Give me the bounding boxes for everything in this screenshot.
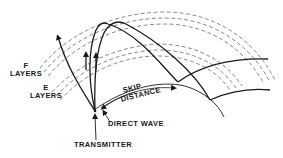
second-hop-ray-1 xyxy=(178,59,268,82)
transmitter-point xyxy=(94,110,97,113)
f-layers xyxy=(40,12,275,84)
e-layers-label-line2: LAYERS xyxy=(26,92,66,100)
f-layer-arc-1 xyxy=(40,12,275,80)
f-layer-arc-3 xyxy=(48,24,264,84)
second-hop-ray-2 xyxy=(210,89,270,100)
e-layer-arc-1 xyxy=(52,44,242,92)
f-layers-label: F LAYERS xyxy=(6,62,46,78)
ionosphere-diagram xyxy=(0,0,283,158)
transmitter-label: TRANSMITTER xyxy=(74,141,132,149)
direct-wave-label: DIRECT WAVE xyxy=(108,120,164,128)
reflected-ray-inner xyxy=(95,22,210,111)
f-layers-label-line2: LAYERS xyxy=(6,70,46,78)
e-layers-label: E LAYERS xyxy=(26,84,66,100)
transmitter-leader xyxy=(95,116,96,140)
transmitter-pointer xyxy=(95,116,96,140)
